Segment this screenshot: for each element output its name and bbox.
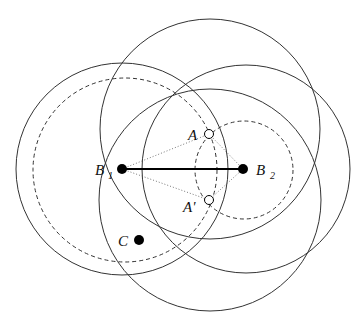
dotted-line-3 xyxy=(209,169,243,200)
label-b2: B xyxy=(256,162,265,178)
dotted-line-1 xyxy=(209,134,243,169)
points-group xyxy=(117,130,248,246)
label-b1-sub: 1 xyxy=(108,170,113,181)
diagram-svg: B 1 B 2 A A' C xyxy=(0,0,363,327)
point-b1 xyxy=(117,164,127,174)
labels-group: B 1 B 2 A A' C xyxy=(95,127,275,249)
label-a-prime: A' xyxy=(182,199,196,215)
geometry-diagram: B 1 B 2 A A' C xyxy=(0,0,363,327)
label-a: A xyxy=(187,127,198,143)
point-c xyxy=(134,235,144,245)
label-b2-sub: 2 xyxy=(270,170,275,181)
circles-group xyxy=(16,19,350,311)
point-b2 xyxy=(238,164,248,174)
label-b1: B xyxy=(95,162,104,178)
point-a-prime xyxy=(205,196,214,205)
label-c: C xyxy=(118,233,129,249)
dotted-line-2 xyxy=(122,169,209,200)
point-a xyxy=(205,130,214,139)
